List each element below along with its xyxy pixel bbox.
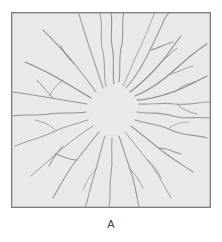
figure-label: A: [0, 217, 222, 231]
specimen-panel: [11, 12, 211, 208]
figure-root: A: [0, 0, 222, 242]
crack-pattern-diagram: [11, 12, 211, 208]
